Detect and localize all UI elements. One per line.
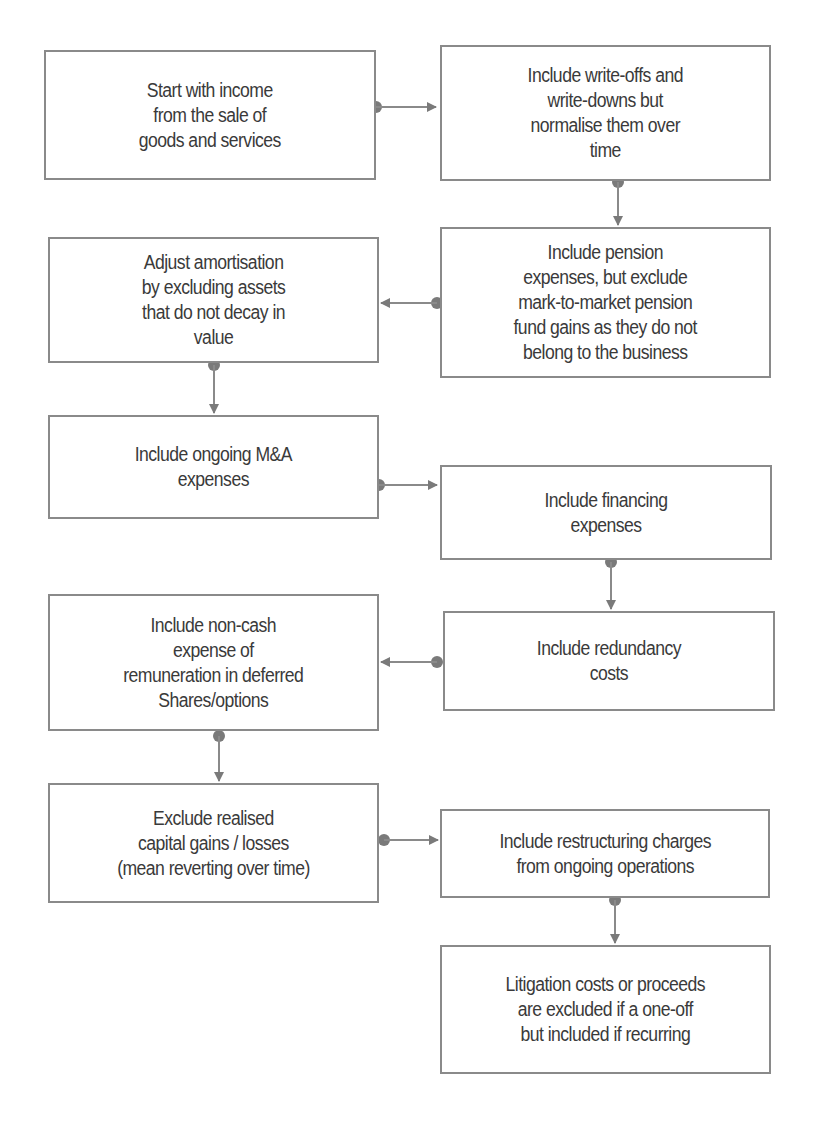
connector-n8-n9 xyxy=(213,730,225,781)
connector-n4-n5 xyxy=(208,359,220,413)
node-label: Include redundancy costs xyxy=(537,636,681,686)
node-start-income: Start with income from the sale of goods… xyxy=(44,50,376,180)
node-label: Include ongoing M&A expenses xyxy=(135,442,292,492)
node-label: Litigation costs or proceeds are exclude… xyxy=(506,972,705,1047)
node-redundancy-costs: Include redundancy costs xyxy=(443,611,775,711)
node-label: Include non-cash expense of remuneration… xyxy=(123,613,303,713)
node-label: Include write-offs and write-downs but n… xyxy=(528,63,683,163)
node-adjust-amortisation: Adjust amortisation by excluding assets … xyxy=(48,237,379,363)
node-non-cash-remuneration: Include non-cash expense of remuneration… xyxy=(48,594,379,731)
node-write-offs: Include write-offs and write-downs but n… xyxy=(440,45,771,181)
node-label: Start with income from the sale of goods… xyxy=(139,78,281,153)
node-label: Adjust amortisation by excluding assets … xyxy=(142,250,286,350)
node-ongoing-ma-expenses: Include ongoing M&A expenses xyxy=(48,415,379,519)
node-pension-expenses: Include pension expenses, but exclude ma… xyxy=(440,227,771,378)
node-label: Exclude realised capital gains / losses … xyxy=(117,806,310,881)
connector-n2-n3 xyxy=(612,176,624,225)
node-exclude-capital-gains: Exclude realised capital gains / losses … xyxy=(48,783,379,903)
connector-n10-n11 xyxy=(609,894,621,943)
node-restructuring-charges: Include restructuring charges from ongoi… xyxy=(440,809,770,898)
connector-n6-n7 xyxy=(605,556,617,609)
node-label: Include restructuring charges from ongoi… xyxy=(499,829,711,879)
connector-n5-n6 xyxy=(373,479,437,491)
connector-n7-n8 xyxy=(381,656,443,668)
node-litigation-costs: Litigation costs or proceeds are exclude… xyxy=(440,945,771,1074)
node-label: Include pension expenses, but exclude ma… xyxy=(514,240,697,365)
node-label: Include financing expenses xyxy=(544,488,667,538)
node-financing-expenses: Include financing expenses xyxy=(440,465,772,560)
connector-n9-n10 xyxy=(378,834,438,846)
connector-n1-n2 xyxy=(370,101,436,113)
connector-n3-n4 xyxy=(381,297,443,309)
